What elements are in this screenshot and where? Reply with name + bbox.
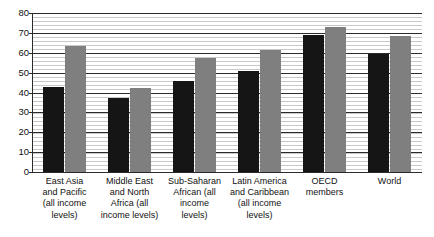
y-axis-ticks: 01020304050607080 (0, 0, 29, 237)
bar-series-gray-2 (195, 58, 216, 172)
bar-chart: 01020304050607080 East Asia and Pacific … (0, 0, 434, 237)
y-tick-label-10: 10 (3, 147, 29, 157)
x-axis-labels: East Asia and Pacific (all income levels… (32, 176, 422, 236)
y-tick-label-0: 0 (3, 167, 29, 177)
y-tick-label-60: 60 (3, 48, 29, 58)
y-tick-label-50: 50 (3, 68, 29, 78)
bar-series-gray-3 (260, 50, 281, 172)
bar-series-dark-5 (368, 54, 389, 172)
y-tick-mark-0 (29, 172, 32, 173)
bar-group (238, 13, 281, 172)
x-axis-label-3: Latin America and Caribbean (all income … (227, 176, 292, 221)
y-tick-label-40: 40 (3, 88, 29, 98)
bar-series-dark-4 (303, 35, 324, 172)
bar-series-gray-4 (325, 27, 346, 172)
bar-series-gray-0 (65, 46, 86, 172)
bar-group (108, 13, 151, 172)
bar-series-dark-3 (238, 71, 259, 172)
y-tick-label-80: 80 (3, 8, 29, 18)
bar-series-dark-2 (173, 81, 194, 172)
x-axis-label-4: OECD members (292, 176, 357, 198)
bar-series-dark-1 (108, 98, 129, 172)
x-axis-label-2: Sub-Saharan African (all income levels) (162, 176, 227, 221)
x-axis-line (32, 172, 422, 173)
x-axis-label-5: World (357, 176, 422, 187)
y-tick-label-70: 70 (3, 28, 29, 38)
x-axis-label-0: East Asia and Pacific (all income levels… (32, 176, 97, 221)
bar-group (368, 13, 411, 172)
bars-layer (32, 13, 422, 172)
y-tick-label-20: 20 (3, 127, 29, 137)
bar-series-dark-0 (43, 87, 64, 172)
bar-group (43, 13, 86, 172)
y-tick-label-30: 30 (3, 107, 29, 117)
bar-group (303, 13, 346, 172)
bar-group (173, 13, 216, 172)
x-axis-label-1: Middle East and North Africa (all income… (97, 176, 162, 221)
bar-series-gray-5 (390, 36, 411, 172)
bar-series-gray-1 (130, 88, 151, 172)
